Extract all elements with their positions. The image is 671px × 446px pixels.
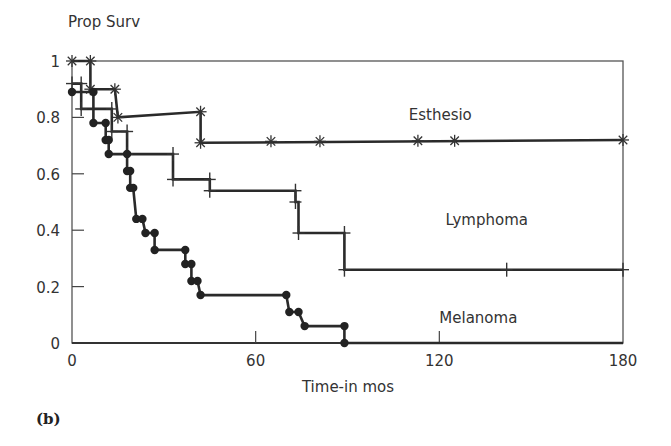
dot-marker (294, 308, 302, 316)
star-marker (109, 83, 121, 95)
star-marker (195, 137, 207, 149)
dot-marker (187, 260, 195, 268)
y-tick-label: 0.6 (36, 166, 60, 184)
dot-marker (340, 322, 348, 330)
survival-curve (72, 61, 623, 143)
dot-marker (150, 229, 158, 237)
y-axis-label: Prop Surv (68, 13, 140, 31)
y-tick-label: 0.8 (36, 109, 60, 127)
dot-marker (105, 136, 113, 144)
dot-marker (285, 308, 293, 316)
dot-marker (138, 215, 146, 223)
axes: 00.20.40.60.81060120180 (36, 53, 637, 370)
y-tick-label: 0 (50, 335, 60, 353)
series-label: Esthesio (409, 106, 472, 124)
y-tick-label: 0.2 (36, 279, 60, 297)
dot-marker (68, 88, 76, 96)
dot-marker (181, 246, 189, 254)
series-layer: EsthesioLymphomaMelanoma (66, 55, 629, 347)
dot-marker (89, 119, 97, 127)
y-tick-label: 1 (50, 53, 60, 71)
series-label: Melanoma (439, 309, 517, 327)
survival-curve (72, 92, 623, 343)
plot-frame (72, 61, 623, 343)
x-tick-label: 0 (67, 352, 77, 370)
dot-marker (340, 339, 348, 347)
dot-marker (196, 291, 204, 299)
dot-marker (129, 184, 137, 192)
star-marker (112, 111, 124, 123)
star-marker (265, 135, 277, 147)
star-marker (449, 135, 461, 147)
star-marker (195, 106, 207, 118)
dot-marker (150, 246, 158, 254)
dot-marker (101, 119, 109, 127)
dot-marker (105, 150, 113, 158)
y-tick-label: 0.4 (36, 222, 60, 240)
star-marker (314, 135, 326, 147)
dot-marker (126, 167, 134, 175)
dot-marker (123, 150, 131, 158)
dot-marker (282, 291, 290, 299)
dot-marker (89, 88, 97, 96)
star-marker (412, 135, 424, 147)
survival-chart: 00.20.40.60.81060120180 EsthesioLymphoma… (0, 0, 671, 446)
x-tick-label: 180 (609, 352, 638, 370)
dot-marker (193, 277, 201, 285)
star-marker (84, 55, 96, 67)
star-marker (66, 55, 78, 67)
series-melanoma: Melanoma (68, 88, 623, 347)
dot-marker (141, 229, 149, 237)
star-marker (617, 134, 629, 146)
dot-marker (300, 322, 308, 330)
series-esthesio: Esthesio (66, 55, 629, 149)
series-label: Lymphoma (445, 211, 527, 229)
series-lymphoma: Lymphoma (66, 77, 629, 277)
x-axis-label: Time-in mos (301, 378, 394, 396)
panel-label: (b) (36, 410, 61, 428)
x-tick-label: 120 (425, 352, 454, 370)
x-tick-label: 60 (246, 352, 265, 370)
